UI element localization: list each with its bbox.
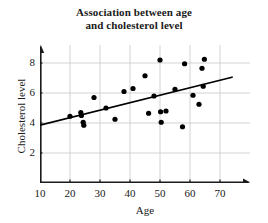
- data-point: [196, 102, 201, 107]
- data-point: [202, 57, 207, 62]
- scatter-plot-svg: [40, 45, 250, 183]
- data-point: [151, 93, 156, 98]
- axes: [40, 45, 250, 183]
- x-axis-tick-label: 50: [148, 187, 172, 199]
- data-point: [112, 117, 117, 122]
- data-point: [103, 105, 108, 110]
- y-axis-label: Cholesterol level: [15, 56, 27, 176]
- data-point: [157, 57, 162, 62]
- gridlines: [40, 45, 250, 183]
- chart-title: Association between age and cholesterol …: [0, 6, 268, 32]
- data-point: [81, 123, 86, 128]
- data-point: [172, 87, 177, 92]
- y-axis-arrowhead: [40, 45, 44, 53]
- data-point: [201, 84, 206, 89]
- chart-title-line-1: Association between age: [0, 6, 268, 19]
- data-point: [67, 114, 72, 119]
- data-point: [182, 61, 187, 66]
- x-axis-tick-label: 20: [58, 187, 82, 199]
- data-point: [163, 108, 168, 113]
- data-point: [199, 66, 204, 71]
- data-point: [142, 73, 147, 78]
- data-point: [158, 109, 163, 114]
- chart-title-line-2: and cholesterol level: [0, 19, 268, 32]
- data-point: [146, 111, 151, 116]
- data-point: [121, 89, 126, 94]
- x-axis-label: Age: [40, 204, 250, 216]
- x-axis-tick-label: 30: [88, 187, 112, 199]
- data-point: [130, 86, 135, 91]
- x-axis-tick-label: 60: [178, 187, 202, 199]
- data-point: [91, 95, 96, 100]
- data-point: [79, 113, 84, 118]
- data-point: [190, 93, 195, 98]
- plot-area: [40, 45, 250, 183]
- x-axis-tick-label: 40: [118, 187, 142, 199]
- x-axis-arrowhead: [243, 179, 250, 183]
- x-axis-tick-label: 10: [28, 187, 52, 199]
- data-point: [159, 120, 164, 125]
- data-point: [180, 124, 185, 129]
- x-axis-tick-label: 70: [208, 187, 232, 199]
- chart-figure: Association between age and cholesterol …: [0, 0, 268, 223]
